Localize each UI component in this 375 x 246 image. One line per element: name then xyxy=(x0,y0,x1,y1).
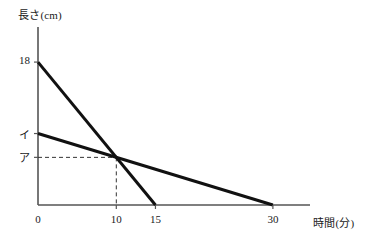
y-tick-label: ア xyxy=(0,149,30,165)
x-tick-label: 0 xyxy=(18,213,58,225)
annotation-guides-group xyxy=(38,157,116,205)
y-tick-label: 18 xyxy=(0,54,30,66)
y-tick-label: イ xyxy=(0,126,30,142)
series-line-shallow-candle xyxy=(38,134,273,205)
plot-area xyxy=(0,0,375,246)
x-tick-label: 10 xyxy=(96,213,136,225)
axes-group xyxy=(38,27,310,205)
series-line-steep-candle xyxy=(38,62,155,205)
x-tick-label: 30 xyxy=(253,213,293,225)
chart-figure: 長さ(cm) 時間(分) 010153018イア xyxy=(0,0,375,246)
x-tick-label: 15 xyxy=(135,213,175,225)
tick-marks-group xyxy=(34,62,273,209)
data-series-group xyxy=(38,62,273,205)
